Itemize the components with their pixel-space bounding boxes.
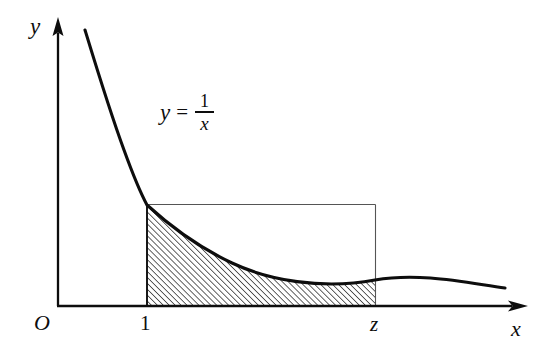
fraction-denominator: x [198,113,210,133]
figure-container: y x O 1 z y = 1 x [0,0,556,353]
x-tick-label-one: 1 [140,313,151,334]
shaded-area-under-curve [145,200,379,308]
origin-label: O [34,312,50,334]
equation-left-side: y [160,101,170,124]
fraction: 1 x [195,92,214,133]
x-axis-label: x [511,318,521,340]
y-axis-label: y [30,15,40,38]
y-axis [53,17,64,306]
fraction-numerator: 1 [198,92,211,111]
x-tick-label-z: z [370,314,378,335]
equation-annotation: y = 1 x [160,92,214,133]
equals-sign: = [176,102,188,123]
plot-canvas [0,0,556,353]
